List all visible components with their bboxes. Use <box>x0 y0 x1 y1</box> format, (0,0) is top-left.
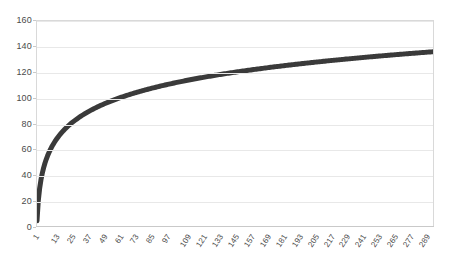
y-tick-label-120: 120 <box>0 68 32 77</box>
chart-container: 020406080100120140160 113253749617385971… <box>0 0 451 269</box>
x-tick-label-265: 265 <box>386 233 400 249</box>
x-tick-label-133: 133 <box>211 233 225 249</box>
gridline-y-80 <box>37 125 433 126</box>
gridline-y-20 <box>37 202 433 203</box>
x-tick-label-1: 1 <box>32 233 41 241</box>
x-tick-label-205: 205 <box>307 233 321 249</box>
x-tick-label-241: 241 <box>354 233 368 249</box>
x-tick-label-49: 49 <box>98 233 110 245</box>
x-tick-label-13: 13 <box>50 233 62 245</box>
x-tick-label-109: 109 <box>179 233 193 249</box>
x-tick-label-121: 121 <box>195 233 209 249</box>
y-tick-label-140: 140 <box>0 42 32 51</box>
gridline-y-160 <box>37 21 433 22</box>
x-tick-label-97: 97 <box>161 233 173 245</box>
series-1-line <box>37 52 433 221</box>
x-tick-label-169: 169 <box>259 233 273 249</box>
x-tick-label-217: 217 <box>323 233 337 249</box>
y-tick-label-100: 100 <box>0 94 32 103</box>
gridline-y-60 <box>37 150 433 151</box>
series-line-chart <box>37 21 433 226</box>
x-tick-label-289: 289 <box>418 233 432 249</box>
x-tick-label-73: 73 <box>129 233 141 245</box>
x-tick-label-181: 181 <box>275 233 289 249</box>
x-tick-label-25: 25 <box>66 233 78 245</box>
x-tick-label-253: 253 <box>370 233 384 249</box>
y-tick-label-60: 60 <box>0 145 32 154</box>
plot-area <box>36 20 434 227</box>
gridline-y-100 <box>37 99 433 100</box>
x-tick-label-229: 229 <box>338 233 352 249</box>
x-tick-label-193: 193 <box>291 233 305 249</box>
y-tick-label-160: 160 <box>0 16 32 25</box>
y-tick-label-80: 80 <box>0 120 32 129</box>
y-tick-label-40: 40 <box>0 171 32 180</box>
x-tick-label-145: 145 <box>227 233 241 249</box>
x-tick-label-37: 37 <box>82 233 94 245</box>
gridline-y-40 <box>37 176 433 177</box>
x-tick-label-157: 157 <box>243 233 257 249</box>
x-tick-label-85: 85 <box>145 233 157 245</box>
gridline-y-140 <box>37 47 433 48</box>
x-tick-label-61: 61 <box>114 233 126 245</box>
x-tick-label-277: 277 <box>402 233 416 249</box>
x-axis: 1132537496173859710912113314515716918119… <box>0 227 451 269</box>
gridline-y-120 <box>37 73 433 74</box>
y-tick-label-20: 20 <box>0 197 32 206</box>
